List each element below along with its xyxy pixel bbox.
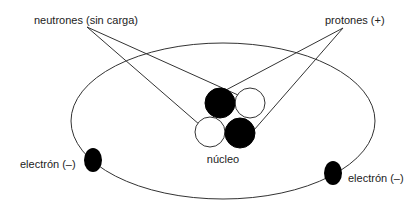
nucleus xyxy=(195,88,265,148)
electron-right-label: electrón (–) xyxy=(348,172,404,184)
electron-left-label: electrón (–) xyxy=(20,158,76,170)
protons-label: protones (+) xyxy=(325,14,385,26)
nucleus-label: núcleo xyxy=(207,153,239,165)
proton-particle xyxy=(225,118,255,148)
proton-particle xyxy=(205,88,235,118)
proton-pointer-line-1 xyxy=(226,28,343,90)
neutron-particle xyxy=(235,88,265,118)
atom-diagram: neutrones (sin carga) protones (+) núcle… xyxy=(0,0,412,206)
electron-right xyxy=(324,161,342,185)
neutrons-label: neutrones (sin carga) xyxy=(34,14,138,26)
neutron-particle xyxy=(195,117,225,147)
electron-left xyxy=(84,148,102,172)
proton-pointer-line-2 xyxy=(254,28,343,130)
neutron-pointer-line-2 xyxy=(87,27,200,125)
neutron-pointer-line-1 xyxy=(87,27,238,95)
